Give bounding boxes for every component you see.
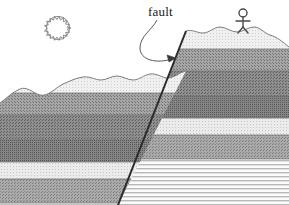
geology-cross-section-figure: fault bbox=[0, 0, 289, 205]
cross-section-canvas bbox=[0, 0, 289, 205]
fault-label: fault bbox=[148, 4, 173, 20]
